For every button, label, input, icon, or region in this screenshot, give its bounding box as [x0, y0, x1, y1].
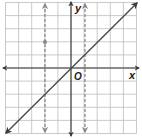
x-axis-label: x: [128, 69, 136, 81]
coordinate-graph: y x O: [0, 0, 142, 138]
origin-label: O: [74, 71, 82, 82]
y-axis-label: y: [74, 2, 82, 14]
point-neg2-2: [43, 40, 47, 44]
